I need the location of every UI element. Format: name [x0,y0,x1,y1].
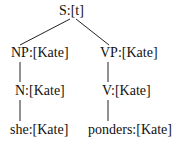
node-v: V:[Kate] [102,84,151,98]
node-ponders: ponders:[Kate] [88,123,172,137]
node-she: she:[Kate] [10,123,68,137]
edge-s-np [20,19,70,45]
node-n: N:[Kate] [15,84,65,98]
node-np: NP:[Kate] [11,46,69,60]
node-vp: VP:[Kate] [100,46,158,60]
edge-s-vp [76,19,109,45]
node-s: S:[t] [59,4,84,18]
